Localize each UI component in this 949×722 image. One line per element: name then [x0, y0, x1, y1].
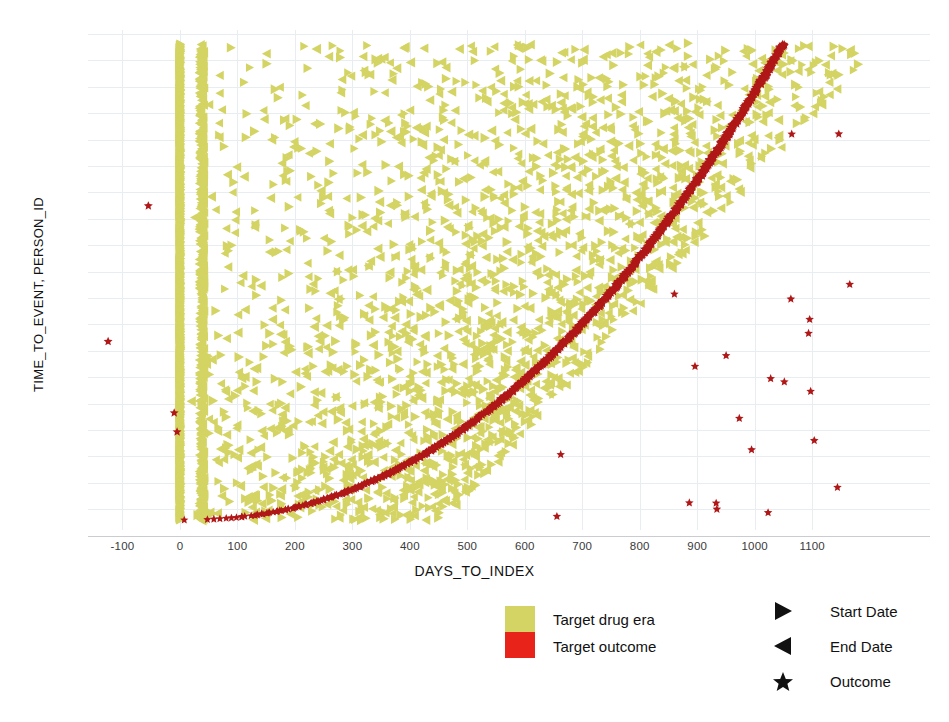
shape-legend-label: End Date — [830, 638, 893, 655]
shape-legend: Start DateEnd DateOutcome — [770, 600, 898, 692]
x-tick-label: 900 — [687, 540, 707, 552]
x-axis-title: DAYS_TO_INDEX — [0, 563, 949, 579]
y-axis-title: TIME_TO_EVENT, PERSON_ID — [31, 165, 46, 425]
color-legend-swatch — [505, 606, 535, 658]
plot-area — [88, 30, 930, 530]
color-swatch-outcome — [505, 632, 535, 658]
x-tick-label: 400 — [400, 540, 420, 552]
chart-root: -100010020030040050060070080090010001100… — [0, 0, 949, 722]
scatter-data-layer — [88, 30, 930, 530]
x-axis-line — [88, 536, 930, 537]
x-tick-label: -100 — [111, 540, 135, 552]
shape-legend-label: Start Date — [830, 603, 898, 620]
x-tick-label: 300 — [342, 540, 362, 552]
color-legend-label: Target outcome — [553, 634, 656, 659]
left-triangle-icon — [770, 635, 796, 657]
x-tick-label: 700 — [572, 540, 592, 552]
color-legend-label: Target drug era — [553, 607, 656, 632]
color-legend-labels: Target drug eraTarget outcome — [553, 606, 656, 659]
color-swatch-drug-era — [505, 606, 535, 632]
shape-legend-item: Start Date — [770, 600, 898, 622]
x-tick-label: 1000 — [741, 540, 767, 552]
x-tick-label: 800 — [630, 540, 650, 552]
x-tick-label: 200 — [285, 540, 305, 552]
right-triangle-icon — [770, 600, 796, 622]
x-tick-label: 0 — [177, 540, 184, 552]
x-tick-label: 600 — [515, 540, 535, 552]
x-tick-label: 100 — [228, 540, 248, 552]
x-tick-label: 500 — [457, 540, 477, 552]
shape-legend-item: Outcome — [770, 670, 898, 692]
color-legend: Target drug eraTarget outcome — [505, 606, 656, 659]
x-tick-label: 1100 — [799, 540, 825, 552]
star-icon — [770, 670, 796, 692]
shape-legend-label: Outcome — [830, 673, 891, 690]
shape-legend-item: End Date — [770, 635, 898, 657]
